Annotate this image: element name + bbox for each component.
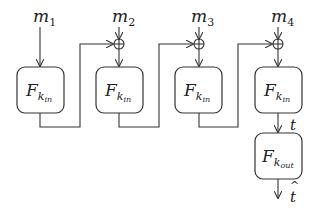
cbc-mac-diagram: m1 m2 m3 m4 Fkin Fkin Fkin bbox=[0, 0, 323, 212]
block-f-kin-2: Fkin bbox=[96, 67, 143, 113]
block-f-kin-4: Fkin bbox=[255, 67, 302, 113]
block-f-kin-3: Fkin bbox=[175, 67, 222, 113]
block-f-kin-1: Fkin bbox=[17, 67, 64, 113]
input-label-m3: m3 bbox=[191, 6, 214, 29]
xor-icon bbox=[114, 39, 124, 49]
xor-icon bbox=[273, 39, 283, 49]
xor-icon bbox=[194, 39, 204, 49]
svg-text:^: ^ bbox=[290, 179, 299, 192]
svg-text:m1: m1 bbox=[33, 6, 56, 29]
svg-text:m2: m2 bbox=[112, 6, 135, 29]
svg-text:m4: m4 bbox=[271, 6, 294, 29]
input-label-m2: m2 bbox=[112, 6, 135, 29]
input-label-m4: m4 bbox=[271, 6, 294, 29]
label-t: t bbox=[290, 116, 297, 134]
block-f-kout: Fkout bbox=[255, 133, 302, 179]
input-label-m1: m1 bbox=[33, 6, 56, 29]
svg-text:m3: m3 bbox=[191, 6, 214, 29]
label-t-hat: t ^ bbox=[290, 179, 299, 206]
